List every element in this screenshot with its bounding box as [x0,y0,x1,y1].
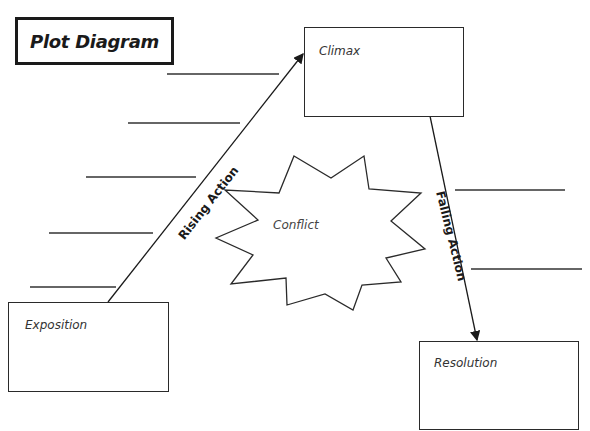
falling-action-blank-lines [455,190,582,269]
conflict-label: Conflict [273,218,319,232]
climax-box[interactable]: Climax [304,27,464,117]
title-box: Plot Diagram [15,17,174,65]
exposition-label: Exposition [25,318,87,332]
exposition-box[interactable]: Exposition [8,302,169,392]
rising-action-blank-lines [30,74,279,287]
page-title: Plot Diagram [30,31,159,52]
conflict-starburst-shape [216,156,425,310]
resolution-box[interactable]: Resolution [419,341,579,430]
resolution-label: Resolution [434,356,497,370]
climax-label: Climax [319,44,360,58]
